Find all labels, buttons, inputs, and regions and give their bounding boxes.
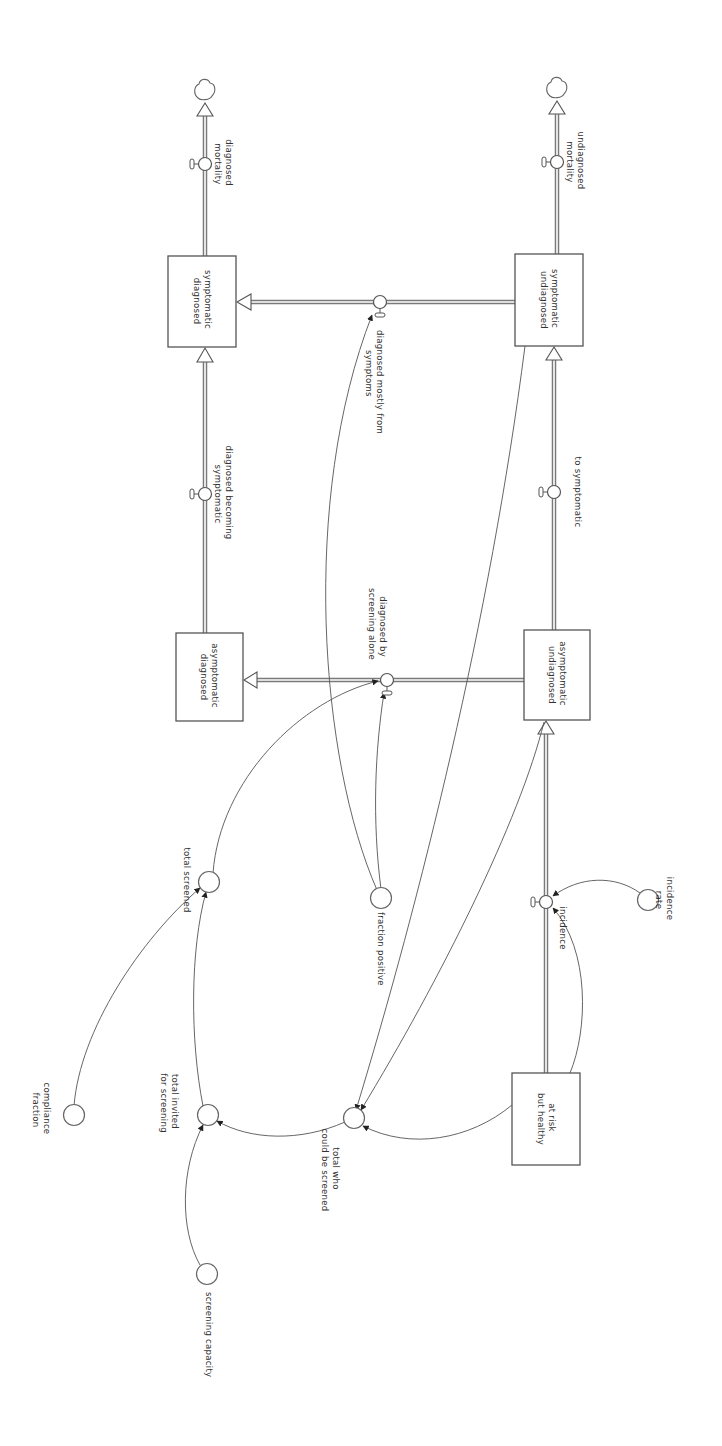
stock-asymptomatic-diagnosed[interactable]: asymptomatic diagnosed	[176, 633, 243, 721]
converter-total-invited-for-screening[interactable]	[198, 1105, 219, 1126]
converter-total-who-could-be-screened[interactable]	[344, 1108, 365, 1129]
stock-label: diagnosed	[199, 654, 209, 701]
stock-symptomatic-diagnosed[interactable]: symptomatic diagnosed	[168, 256, 236, 347]
pipe-diagnosed-mortality	[197, 103, 213, 256]
flow-label-to-symptomatic: to symptomatic	[573, 457, 583, 528]
stock-label: undiagnosed	[539, 271, 549, 329]
flow-arrowhead-icon	[197, 103, 213, 116]
flow-arrowhead-icon	[197, 348, 213, 362]
converter-label-total-who-could-be-screened: total who could be screened	[320, 1128, 341, 1211]
valve-diagnosed-becoming-symptomatic[interactable]	[190, 488, 212, 501]
flow-arrowhead-icon	[237, 294, 251, 310]
stock-flow-diagram: at risk but healthy asymptomatic undiagn…	[0, 0, 722, 1446]
flow-label-diagnosed-by-screening-alone: diagnosed by screening alone	[367, 588, 388, 660]
stock-label: symptomatic	[203, 270, 213, 329]
flow-label-diagnosed-mostly-from-symptoms: diagnosed mostly from symptoms	[364, 330, 385, 437]
converter-label-screening-capacity: screening capacity	[204, 1292, 214, 1377]
flow-label-diagnosed-mortality: diagnosed mortality	[213, 139, 234, 189]
converter-label-total-screened: total screened	[182, 847, 192, 912]
flow-arrowhead-icon	[538, 721, 554, 734]
converter-label-fraction-positive: fraction positive	[376, 912, 386, 986]
stock-label: at risk	[547, 1103, 557, 1132]
converter-label-total-invited-for-screening: total invited for screening	[159, 1073, 180, 1133]
svg-text:symptomatic diagnosed: symptomatic diagnosed	[192, 270, 213, 332]
svg-text:asymptomatic undiagnosed: asymptomatic undiagnosed	[547, 641, 568, 708]
flow-label-incidence: incidence	[558, 906, 568, 949]
converter-total-screened[interactable]	[199, 872, 220, 893]
stock-symptomatic-undiagnosed[interactable]: symptomatic undiagnosed	[515, 254, 583, 346]
stock-label: asymptomatic	[558, 641, 568, 705]
pipe-undiagnosed-mortality	[549, 101, 565, 254]
stock-label: undiagnosed	[547, 646, 557, 704]
valve-diagnosed-by-screening-alone[interactable]	[381, 674, 394, 696]
converter-label-incidence-rate: incidence rate	[654, 877, 675, 923]
valve-incidence[interactable]	[531, 896, 553, 909]
valve-diagnosed-mostly-from-symptoms[interactable]	[374, 296, 387, 318]
sink-cloud-icon	[547, 77, 567, 97]
valve-to-symptomatic[interactable]	[539, 486, 561, 499]
stock-label: symptomatic	[550, 269, 560, 328]
stock-asymptomatic-undiagnosed[interactable]: asymptomatic undiagnosed	[524, 630, 590, 720]
valve-diagnosed-mortality[interactable]	[190, 158, 212, 171]
converter-fraction-positive[interactable]	[371, 888, 392, 909]
flow-label-undiagnosed-mortality: undiagnosed mortality	[565, 131, 586, 192]
converter-label-compliance-fraction: compliance fraction	[31, 1083, 52, 1138]
flow-label-diagnosed-becoming-symptomatic: diagnosed becoming symptomatic	[213, 445, 234, 542]
sink-cloud-icon	[195, 79, 215, 99]
stock-label: asymptomatic	[210, 643, 220, 707]
converter-compliance-fraction[interactable]	[64, 1105, 85, 1126]
svg-text:symptomatic undiagnosed: symptomatic undiagnosed	[539, 269, 560, 331]
flow-arrowhead-icon	[244, 672, 257, 688]
stock-at-risk-but-healthy[interactable]: at risk but healthy	[512, 1073, 580, 1165]
converter-screening-capacity[interactable]	[197, 1264, 218, 1285]
stock-label: diagnosed	[192, 278, 202, 325]
valve-undiagnosed-mortality[interactable]	[542, 156, 564, 169]
stock-label: but healthy	[536, 1093, 546, 1145]
flow-arrowhead-icon	[549, 101, 565, 114]
flow-arrowhead-icon	[546, 347, 562, 360]
